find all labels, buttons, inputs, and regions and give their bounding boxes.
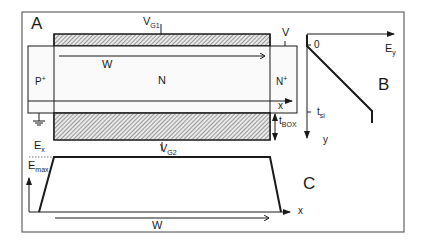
drain-label: N+ xyxy=(276,75,287,87)
c-emax-subscript: max xyxy=(35,166,48,173)
c-width-label: W xyxy=(152,220,162,231)
drain-bias-label: V xyxy=(282,27,289,38)
device-diagram xyxy=(0,0,422,244)
source-symbol: P xyxy=(35,76,42,87)
x-axis-label: x xyxy=(278,101,283,111)
c-x-axis-label: x xyxy=(298,206,303,216)
top-gate xyxy=(54,34,270,46)
c-ex-subscript: x xyxy=(41,146,45,153)
c-field-profile xyxy=(39,157,281,212)
tbox-label: tBOX xyxy=(279,116,297,128)
panel-a-label: A xyxy=(31,15,42,32)
bottom-gate-subscript: G2 xyxy=(167,149,176,156)
tbox-subscript: BOX xyxy=(282,121,297,128)
panel-c-plot xyxy=(29,157,290,218)
panel-c-label: C xyxy=(303,175,315,192)
panel-b-label: B xyxy=(378,76,389,93)
b-ey-label: Ey xyxy=(385,43,396,56)
bottom-gate-label: VG2 xyxy=(160,143,177,156)
drain-sup: + xyxy=(283,75,287,82)
panel-a-device xyxy=(28,24,297,151)
top-gate-subscript: G1 xyxy=(150,22,159,29)
c-emax-label: Emax xyxy=(28,160,49,173)
ground-icon xyxy=(33,113,45,125)
body-label: N xyxy=(158,75,166,86)
b-zero-label: 0 xyxy=(314,40,320,50)
source-label: P+ xyxy=(35,75,46,87)
source-sup: + xyxy=(42,75,46,82)
width-label: W xyxy=(102,59,112,70)
c-ex-label: Ex xyxy=(34,140,45,153)
b-tsi-label: tsi xyxy=(317,107,325,119)
b-ey-subscript: y xyxy=(392,49,396,56)
b-y-axis-label: y xyxy=(323,135,328,145)
b-tsi-subscript: si xyxy=(320,112,325,119)
bottom-gate xyxy=(54,113,270,140)
top-gate-label: VG1 xyxy=(143,16,160,29)
